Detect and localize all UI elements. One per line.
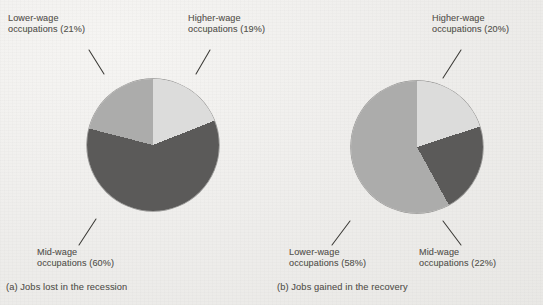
figure-panel-jobs-lost: Lower-wage occupations (21%) Higher-wage…	[0, 0, 272, 305]
leader-line-higher-wage	[443, 50, 461, 78]
callout-mid-wage-a: Mid-wage occupations (60%)	[37, 247, 114, 270]
leader-line-lower-wage	[89, 50, 104, 74]
callout-lower-wage-b: Lower-wage occupations (58%)	[289, 247, 366, 270]
figure-caption-a: (a) Jobs lost in the recession	[6, 281, 127, 293]
pie-chart-jobs-lost	[87, 79, 219, 211]
leader-line-mid-wage	[79, 219, 96, 245]
callout-lower-wage-a: Lower-wage occupations (21%)	[8, 13, 85, 36]
pie-slices-jobs-gained	[351, 81, 483, 213]
leader-line-mid-wage	[443, 221, 461, 245]
figure-panel-jobs-gained: Higher-wage occupations (20%) Lower-wage…	[271, 0, 543, 305]
figure-caption-b: (b) Jobs gained in the recovery	[277, 281, 408, 293]
callout-higher-wage-a: Higher-wage occupations (19%)	[188, 13, 265, 36]
pie-chart-jobs-gained	[351, 81, 483, 213]
pie-slices-jobs-lost	[87, 79, 219, 211]
leader-line-lower-wage	[332, 221, 350, 245]
callout-higher-wage-b: Higher-wage occupations (20%)	[432, 13, 509, 36]
leader-line-higher-wage	[196, 50, 210, 74]
callout-mid-wage-b: Mid-wage occupations (22%)	[419, 247, 496, 270]
